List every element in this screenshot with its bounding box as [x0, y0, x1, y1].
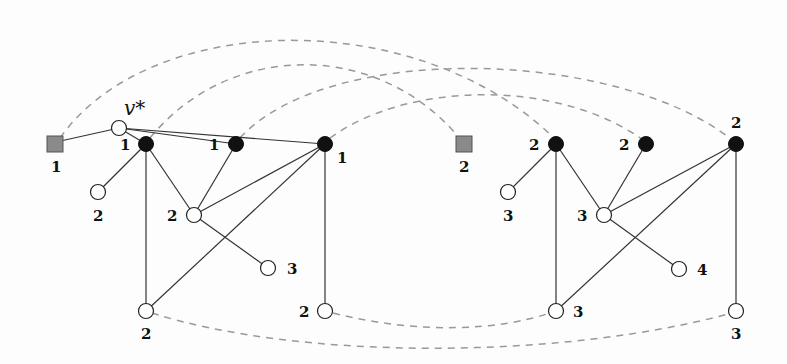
- label-w1br: 2: [299, 303, 309, 321]
- arc-w1br-w2bl: [333, 313, 550, 328]
- arc-w1bl-w2br: [152, 313, 732, 348]
- label-w2bl: 3: [573, 303, 583, 321]
- label-w1bl: 2: [141, 325, 151, 343]
- white-node-2br: [729, 304, 744, 319]
- label-sq2: 2: [459, 158, 469, 176]
- solid-edges-right: [508, 144, 736, 311]
- label-sq1: 1: [51, 158, 61, 176]
- arc-b1c-b2b: [330, 95, 643, 140]
- white-node-1bl: [139, 304, 154, 319]
- arc-sq1-b2a: [60, 40, 556, 140]
- label-w1mid: 2: [167, 207, 177, 225]
- v-star-label: v*: [124, 96, 145, 120]
- black-node-2b: [639, 137, 654, 152]
- black-node-2a: [549, 137, 564, 152]
- white-node-2mid: [597, 208, 612, 223]
- graph-diagram: v* 1 1 1 1 2 2 3 2 2 2 2 2 2 3 3 4 3 3: [0, 0, 787, 364]
- label-b2c: 2: [731, 114, 741, 132]
- white-node-2bl: [549, 304, 564, 319]
- label-w2mid: 3: [577, 207, 587, 225]
- white-node-1r: [261, 261, 276, 276]
- label-b2a: 2: [529, 136, 539, 154]
- black-node-2c: [729, 137, 744, 152]
- label-w1a: 2: [93, 207, 103, 225]
- label-w2r: 4: [697, 261, 707, 279]
- label-w1r: 3: [287, 260, 297, 278]
- label-w2a: 3: [503, 207, 513, 225]
- label-b1c: 1: [337, 149, 347, 167]
- white-node-1a: [91, 185, 106, 200]
- label-b2b: 2: [619, 136, 629, 154]
- white-node-2r: [672, 262, 687, 277]
- square-node-2: [456, 136, 472, 152]
- black-node-1b: [229, 137, 244, 152]
- label-w2br: 3: [731, 325, 741, 343]
- v-star-node: [112, 121, 127, 136]
- dashed-links: [60, 40, 732, 348]
- arc-b1b-b2c: [240, 68, 732, 140]
- black-node-1c: [318, 137, 333, 152]
- label-b1b: 1: [209, 136, 219, 154]
- black-node-1a: [139, 137, 154, 152]
- white-node-1br: [318, 304, 333, 319]
- white-node-2a: [501, 185, 516, 200]
- square-node-1: [47, 136, 63, 152]
- white-node-1mid: [187, 208, 202, 223]
- label-b1a: 1: [120, 136, 130, 154]
